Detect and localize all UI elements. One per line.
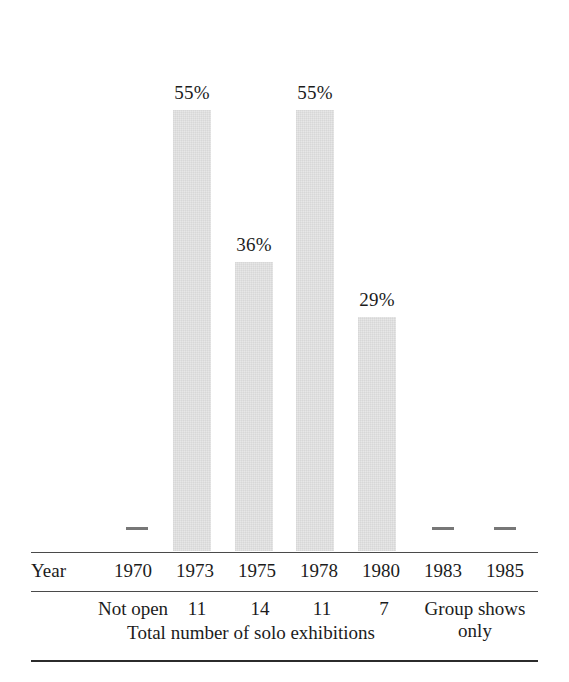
year-cell-1973: 1973 [165, 560, 225, 582]
bar-value-label-1980: 29% [347, 290, 407, 309]
year-cell-1978: 1978 [289, 560, 349, 582]
no-data-dash-1983 [432, 527, 454, 530]
table-rule-middle [31, 591, 538, 592]
year-cell-1970: 1970 [103, 560, 163, 582]
year-cell-1975: 1975 [227, 560, 287, 582]
bar-1980 [358, 317, 396, 551]
no-data-dash-1985 [494, 527, 516, 530]
table-rule-bottom [31, 660, 538, 662]
table-caption: Total number of solo exhibitions [86, 622, 416, 644]
count-cell-1970: Not open [90, 598, 176, 620]
count-cell-1978: 11 [292, 598, 352, 620]
bar-value-label-1975: 36% [224, 235, 284, 254]
year-cell-1985: 1985 [475, 560, 535, 582]
bar-1973 [173, 110, 211, 551]
table-row-header-year: Year [31, 560, 66, 582]
no-data-dash-1970 [126, 527, 148, 530]
bar-value-label-1973: 55% [162, 83, 222, 102]
bar-chart-figure: 55% 36% 55% 29% Year 1970 1973 1975 1978… [0, 0, 569, 682]
count-cell-1980: 7 [354, 598, 414, 620]
year-cell-1983: 1983 [413, 560, 473, 582]
count-cell-1975: 14 [230, 598, 290, 620]
bar-1978 [296, 110, 334, 551]
count-cell-group-shows-line2: only [432, 620, 518, 642]
count-cell-group-shows-line1: Group shows [415, 598, 535, 620]
table-rule-top [31, 552, 538, 553]
bar-value-label-1978: 55% [285, 83, 345, 102]
count-cell-1973: 11 [167, 598, 227, 620]
year-cell-1980: 1980 [351, 560, 411, 582]
bar-1975 [235, 262, 273, 551]
